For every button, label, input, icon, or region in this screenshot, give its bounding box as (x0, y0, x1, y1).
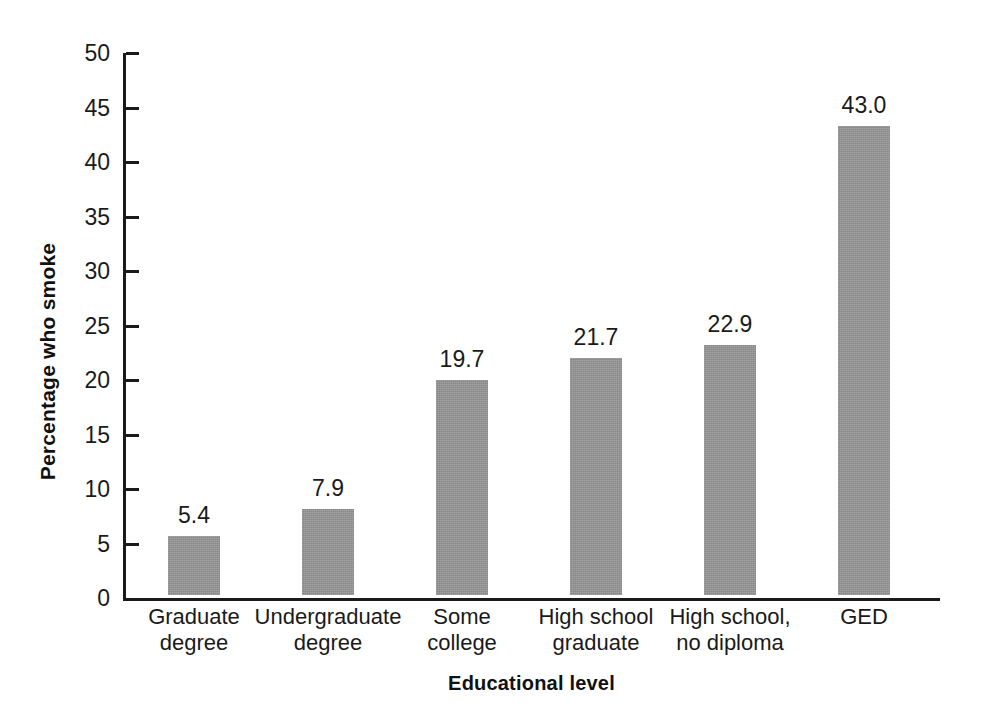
x-axis-title: Educational level (123, 672, 940, 695)
y-axis-tick-mark (126, 325, 139, 328)
bar-rect (168, 536, 220, 595)
bar-rect (436, 380, 488, 595)
y-axis-tick-label: 30 (84, 258, 110, 285)
y-axis-tick-mark (126, 379, 139, 382)
bar: 5.4 (168, 536, 220, 595)
y-axis-tick-label: 15 (84, 421, 110, 448)
bar-rect (302, 509, 354, 595)
bar-rect (838, 126, 890, 595)
plot-area: 05101520253035404550 5.47.919.721.722.94… (123, 53, 940, 598)
bar-value-label: 43.0 (842, 94, 887, 117)
y-axis-tick-label: 5 (97, 530, 110, 557)
bar-rect (704, 345, 756, 595)
bar: 7.9 (302, 509, 354, 595)
bar: 21.7 (570, 358, 622, 595)
y-axis-tick-label: 35 (84, 203, 110, 230)
bar: 22.9 (704, 345, 756, 595)
y-axis-tick-label: 45 (84, 94, 110, 121)
bar-chart-figure: Percentage who smoke 0510152025303540455… (0, 0, 981, 723)
bar-value-label: 22.9 (708, 313, 753, 336)
y-axis-tick-label: 50 (84, 40, 110, 67)
y-axis-tick-mark (126, 216, 139, 219)
y-axis-tick-label: 20 (84, 367, 110, 394)
y-axis-tick-mark (126, 161, 139, 164)
bar: 19.7 (436, 380, 488, 595)
y-axis-tick-mark (126, 270, 139, 273)
bar-value-label: 7.9 (312, 477, 344, 500)
y-axis-tick-label: 10 (84, 476, 110, 503)
bar-value-label: 5.4 (178, 504, 210, 527)
y-axis-tick-mark (126, 52, 139, 55)
y-axis-tick-label: 40 (84, 149, 110, 176)
x-axis-line (123, 598, 940, 601)
x-axis-category-label: GED (774, 604, 954, 630)
bar-value-label: 21.7 (574, 326, 619, 349)
y-axis-tick-mark (126, 543, 139, 546)
category-label-line: GED (774, 604, 954, 630)
bar-rect (570, 358, 622, 595)
bar: 43.0 (838, 126, 890, 595)
y-axis-tick-mark (126, 488, 139, 491)
y-axis-title: Percentage who smoke (20, 0, 76, 723)
bar-value-label: 19.7 (440, 348, 485, 371)
y-axis-tick-label: 25 (84, 312, 110, 339)
y-axis-tick-mark (126, 107, 139, 110)
category-label-line: no diploma (640, 630, 820, 656)
y-axis-tick-mark (126, 434, 139, 437)
